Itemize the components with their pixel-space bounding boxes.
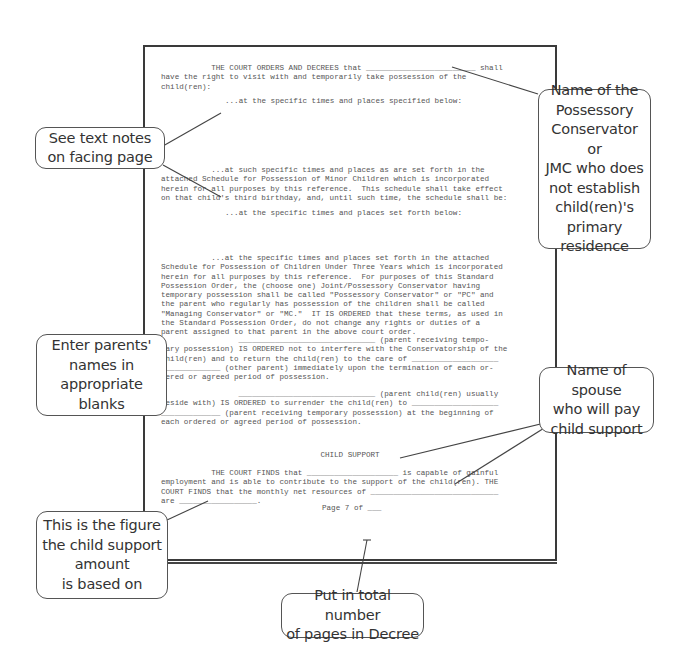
non-interference-paragraph: ______________________________ (parent r… bbox=[161, 336, 507, 382]
callout-total-pages: Put in total number of pages in Decree bbox=[281, 593, 424, 638]
option-set-forth-below: ...at the specific times and places set … bbox=[225, 209, 462, 218]
visitation-paragraph: THE COURT ORDERS AND DECREES that ______… bbox=[161, 64, 503, 92]
section-title-child-support: CHILD SUPPORT bbox=[143, 451, 557, 460]
callout-text-notes: See text notes on facing page bbox=[35, 127, 165, 169]
callout-spouse-pay: Name of spouse who will pay child suppor… bbox=[539, 367, 654, 433]
option-schedule-minor-children: ...at such specific times and places as … bbox=[161, 166, 507, 203]
callout-possessory-conservator: Name of the Possessory Conservator or JM… bbox=[538, 89, 651, 249]
surrender-paragraph: ______________________________ (parent c… bbox=[161, 390, 498, 427]
callout-parents-names: Enter parents' names in appropriate blan… bbox=[36, 334, 167, 416]
page-number-footer: Page 7 of ___ bbox=[322, 504, 381, 513]
option-specified-below: ...at the specific times and places spec… bbox=[225, 97, 462, 106]
callout-figure-based: This is the figure the child support amo… bbox=[36, 511, 168, 599]
child-support-paragraph: THE COURT FINDS that ___________________… bbox=[161, 469, 498, 506]
option-under-three-years: ...at the specific times and places set … bbox=[161, 254, 503, 338]
